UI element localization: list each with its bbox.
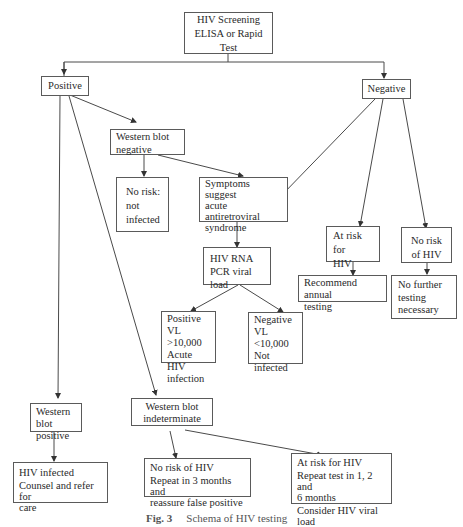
node-text: infection: [167, 373, 210, 385]
node-text: reassure false positive: [150, 497, 245, 508]
node-text: necessary: [398, 304, 450, 317]
node-text: VL >10,000: [167, 325, 210, 349]
node-positive: Positive: [41, 76, 89, 96]
node-text: of HIV: [408, 248, 445, 262]
node-text: No risk:: [126, 185, 168, 199]
node-text: negative: [116, 143, 179, 156]
node-text: Western blot: [36, 406, 76, 430]
node-text: Negative: [363, 82, 410, 96]
caption-label: Fig. 3: [146, 512, 172, 524]
node-vl-positive: Positive VL >10,000 Acute HIV infection: [161, 311, 216, 363]
node-text: positive: [36, 430, 76, 442]
node-indeterminate-at-risk: At risk for HIV Repeat test in 1, 2 and …: [291, 453, 392, 504]
node-text: HIV: [333, 257, 373, 271]
node-at-risk-hiv: At risk for HIV: [326, 226, 380, 262]
node-text: Repeat in 3 months and: [150, 475, 245, 497]
node-text: VL <10,000: [254, 326, 297, 350]
node-text: No further: [398, 279, 450, 292]
node-text: At risk for: [333, 229, 373, 257]
node-hiv-screening: HIV Screening ELISA or Rapid Test: [184, 12, 273, 54]
figure-caption: Fig. 3Schema of HIV testing: [146, 512, 287, 524]
node-text: PCR viral load: [210, 265, 264, 291]
node-western-blot-indeterminate: Western blot indeterminate: [131, 398, 213, 426]
node-text: testing: [398, 292, 450, 305]
node-text: Positive: [167, 313, 210, 325]
node-no-further-testing: No further testing necessary: [391, 275, 457, 319]
node-indeterminate-no-risk: No risk of HIV Repeat in 3 months and re…: [144, 458, 251, 497]
node-text: not: [126, 199, 168, 213]
node-text: ELISA or Rapid: [191, 27, 266, 41]
node-no-risk-not-infected: No risk: not infected: [116, 177, 169, 232]
node-text: testing: [304, 301, 381, 313]
node-text: Western blot: [116, 130, 179, 143]
caption-text: Schema of HIV testing: [186, 512, 287, 524]
node-text: Test: [191, 41, 266, 55]
node-western-blot-positive: Western blot positive: [30, 403, 82, 432]
node-text: Counsel and refer for: [19, 480, 102, 502]
node-text: antiretroviral: [205, 211, 282, 222]
node-text: Not: [254, 350, 297, 362]
node-vl-negative: Negative VL <10,000 Not infected: [248, 312, 303, 364]
node-text: At risk for HIV: [297, 457, 386, 468]
node-western-blot-negative: Western blot negative: [110, 129, 185, 155]
node-text: infected: [126, 213, 168, 227]
node-text: indeterminate: [132, 413, 212, 425]
node-text: HIV RNA: [210, 252, 264, 265]
node-text: Positive: [42, 79, 88, 93]
node-text: HIV Screening: [191, 13, 266, 27]
node-hiv-infected: HIV infected Counsel and refer for care: [13, 462, 108, 503]
node-text: 6 months: [297, 492, 386, 503]
node-text: Negative: [254, 314, 297, 326]
node-text: Repeat test in 1, 2 and: [297, 470, 386, 492]
node-text: Acute HIV: [167, 349, 210, 373]
node-text: care: [19, 502, 102, 513]
node-text: Symptoms suggest: [205, 178, 282, 200]
node-negative: Negative: [362, 79, 411, 99]
node-text: acute: [205, 200, 282, 211]
node-text: Recommend annual: [304, 277, 381, 301]
node-text: infected: [254, 362, 297, 374]
node-symptoms-acute: Symptoms suggest acute antiretroviral sy…: [199, 177, 288, 222]
node-text: Consider HIV viral load: [297, 505, 386, 527]
node-text: Western blot: [132, 401, 212, 413]
node-no-risk-of-hiv: No risk of HIV: [401, 227, 452, 263]
node-text: syndrome: [205, 222, 282, 233]
node-hiv-rna-pcr: HIV RNA PCR viral load: [203, 247, 271, 285]
node-text: No risk: [408, 234, 445, 248]
node-text: HIV infected: [19, 467, 102, 478]
node-text: No risk of HIV: [150, 462, 245, 473]
node-recommend-annual-testing: Recommend annual testing: [298, 275, 387, 302]
